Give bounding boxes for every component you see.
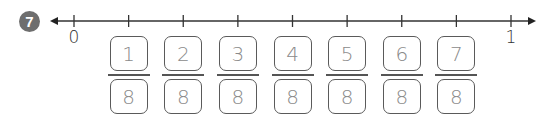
label-one: 1 [506,27,517,47]
denominator-box[interactable]: 8 [437,79,475,114]
fraction-bar [381,74,423,76]
fraction: 48 [274,36,312,118]
fraction-bar [162,74,204,76]
denominator-box[interactable]: 8 [219,79,257,114]
fraction: 58 [328,36,366,118]
numerator-box[interactable]: 7 [437,36,475,71]
label-zero: 0 [69,27,80,47]
fraction: 28 [164,36,202,118]
numerator-box[interactable]: 5 [328,36,366,71]
numerator-box[interactable]: 4 [274,36,312,71]
fraction: 38 [219,36,257,118]
denominator-box[interactable]: 8 [164,79,202,114]
numerator-box[interactable]: 6 [383,36,421,71]
numerator-box[interactable]: 1 [110,36,148,71]
denominator-box[interactable]: 8 [110,79,148,114]
numerator-box[interactable]: 2 [164,36,202,71]
right-arrow-icon [528,17,536,25]
fraction: 78 [437,36,475,118]
fraction-bar [326,74,368,76]
left-arrow-icon [50,17,58,25]
fraction-bar [435,74,477,76]
fraction-bar [108,74,150,76]
fraction-bar [217,74,259,76]
denominator-box[interactable]: 8 [274,79,312,114]
denominator-box[interactable]: 8 [383,79,421,114]
numerator-box[interactable]: 3 [219,36,257,71]
fraction-bar [272,74,314,76]
fraction: 68 [383,36,421,118]
fraction: 18 [110,36,148,118]
denominator-box[interactable]: 8 [328,79,366,114]
number-line [0,0,551,40]
